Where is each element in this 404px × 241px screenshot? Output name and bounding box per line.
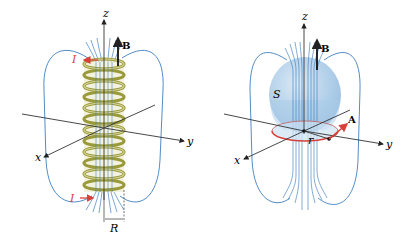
magnetic-field-figure: z x y B I I R [0, 0, 404, 241]
current-label-top: I [71, 53, 77, 66]
x-axis-label-left: x [35, 151, 42, 164]
b-field-label-right: B [321, 43, 329, 54]
surface-panel: z x y B S A r [224, 10, 393, 210]
x-axis-label-right: x [234, 154, 241, 167]
z-axis-label-right: z [301, 10, 308, 23]
a-vector-label: A [347, 114, 356, 125]
y-axis-label-right: y [385, 138, 393, 151]
radius-label-r: r [308, 134, 314, 147]
current-label-bottom: I [69, 192, 75, 205]
b-field-label-left: B [122, 40, 130, 51]
radius-label-R: R [109, 222, 118, 235]
solenoid-panel: z x y B I I R [22, 7, 194, 235]
z-axis-label-left: z [102, 7, 109, 20]
y-axis-label-left: y [186, 135, 194, 148]
surface-label-s: S [273, 88, 281, 101]
field-lines-bottom-fan [86, 192, 124, 213]
diagram-canvas: z x y B I I R [0, 0, 404, 241]
radius-dimension [104, 190, 124, 222]
